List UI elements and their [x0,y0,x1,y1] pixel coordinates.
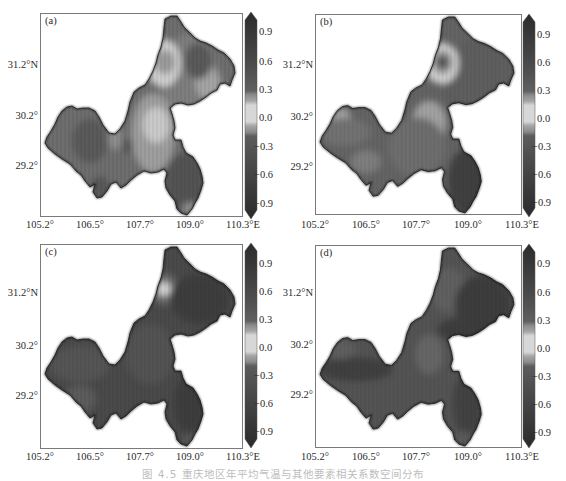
y-tick-label: 29.2° [15,160,38,171]
panel-label: (d) [320,247,332,258]
map-plot-d [278,231,566,463]
y-tick-label: 30.2° [290,111,313,122]
y-tick-label: 29.2° [15,390,38,401]
y-tick-label: 29.2° [290,161,313,172]
colorbar-tick-label: 0.9 [537,258,550,269]
x-tick-label: 105.2° [26,451,54,462]
y-tick-label: 30.2° [15,340,38,351]
colorbar-c [245,243,257,448]
panel-c: (c) 31.2°N 30.2° 29.2° 105.2° 106.5° 107… [0,231,283,463]
x-tick-label: 106.5° [76,219,104,230]
x-tick-label: 105.2° [301,219,329,230]
x-tick-label: 105.2° [26,219,54,230]
colorbar-tick-label: 0.3 [259,314,272,325]
colorbar-tick-label: −0.6 [532,399,551,410]
x-tick-label: 106.5° [76,451,104,462]
panel-d: (d) 31.2°N 30.2° 29.2° 105.2° 106.5° 107… [278,231,561,463]
y-tick-label: 30.2° [15,110,38,121]
colorbar-tick-label: 0.0 [537,343,550,354]
colorbar-tick-label: −0.6 [254,169,273,180]
x-tick-label: 109.0° [454,451,482,462]
x-tick-label: 109.0° [176,219,204,230]
colorbar-tick-label: 0.6 [259,56,272,67]
colorbar-tick-label: −0.6 [254,398,273,409]
colorbar-tick-label: 0.3 [537,85,550,96]
colorbar-tick-label: −0.3 [254,370,273,381]
x-tick-label: 109.0° [454,219,482,230]
colorbar-tick-label: −0.9 [254,198,273,209]
panel-label: (c) [45,246,57,257]
x-tick-label: 110.3°E [226,219,260,230]
y-tick-label: 29.2° [290,389,313,400]
colorbar-tick-label: 0.9 [259,26,272,37]
x-tick-label: 110.3°E [505,451,539,462]
colorbar-tick-label: 0.6 [537,57,550,68]
colorbar-tick-label: 0.0 [537,113,550,124]
colorbar-tick-label: −0.9 [254,426,273,437]
x-tick-label: 105.2° [301,451,329,462]
panel-a: (a) 31.2°N 30.2° 29.2° 105.2° 106.5° 107… [0,0,283,232]
x-tick-label: 110.3°E [226,451,260,462]
colorbar-tick-label: −0.6 [532,169,551,180]
x-tick-label: 106.5° [352,219,380,230]
colorbar-tick-label: 0.3 [259,84,272,95]
colorbar-a [245,12,257,219]
colorbar-tick-label: 0.0 [259,112,272,123]
colorbar-tick-label: 0.9 [537,29,550,40]
y-tick-label: 31.2°N [283,287,313,298]
figure-caption: 图 4.5 重庆地区年平均气温与其他要素相关系数空间分布 [0,466,566,481]
colorbar-tick-label: 0.9 [259,258,272,269]
colorbar-tick-label: −0.3 [532,141,551,152]
panel-label: (a) [45,15,57,26]
colorbar-tick-label: 0.6 [537,287,550,298]
y-tick-label: 31.2°N [283,59,313,70]
map-plot-b [278,0,566,232]
colorbar-tick-label: 0.6 [259,286,272,297]
x-tick-label: 107.7° [126,219,154,230]
x-tick-label: 107.7° [402,219,430,230]
y-tick-label: 31.2°N [8,59,38,70]
colorbar-tick-label: 0.3 [537,315,550,326]
x-tick-label: 107.7° [126,451,154,462]
colorbar-tick-label: −0.3 [532,371,551,382]
panel-label: (b) [320,16,332,27]
y-tick-label: 30.2° [290,339,313,350]
colorbar-tick-label: 0.0 [259,342,272,353]
x-tick-label: 107.7° [402,451,430,462]
x-tick-label: 110.3°E [505,219,539,230]
panel-b: (b) 31.2°N 30.2° 29.2° 105.2° 106.5° 107… [278,0,561,232]
map-plot-c [0,231,283,463]
colorbar-tick-label: −0.9 [532,197,551,208]
colorbar-tick-label: −0.9 [532,427,551,438]
y-tick-label: 31.2°N [8,287,38,298]
colorbar-d [523,244,535,448]
colorbar-tick-label: −0.3 [254,141,273,152]
colorbar-b [523,14,535,217]
x-tick-label: 109.0° [176,451,204,462]
map-plot-a [0,0,283,232]
x-tick-label: 106.5° [352,451,380,462]
